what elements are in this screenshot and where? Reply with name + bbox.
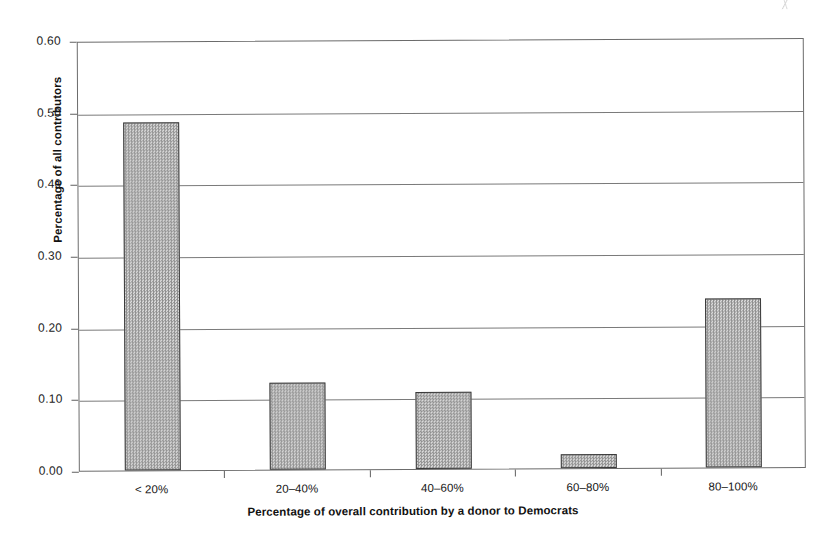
y-axis-tick-label: 0.60 [19,34,61,48]
y-axis-tick-label: 0.50 [19,105,61,119]
y-axis-tick [70,113,77,114]
plot-area [77,38,806,472]
gridlines [78,39,803,43]
gridline [78,182,803,187]
scan-artifact-speck [775,0,797,9]
x-axis-tick-label: 40–60% [382,482,502,495]
x-axis-ticks: < 20%20–40%40–60%60–80%80–100% [0,0,823,2]
bar [561,454,617,468]
x-axis-tick [370,470,371,477]
y-axis-tick [71,328,78,329]
gridline [79,326,804,331]
x-axis-tick-label: < 20% [92,483,212,496]
bar-chart-figure: Percentage of all contributors 0.000.100… [0,0,824,542]
x-axis-tick-label: 80–100% [673,480,793,493]
bar [705,298,762,467]
bar [415,391,471,469]
y-axis-tick-label: 0.00 [21,464,63,478]
y-axis-tick-label: 0.20 [20,320,62,334]
gridline [79,254,804,259]
y-axis-tick-label: 0.10 [20,392,62,406]
x-axis-tick-label: 20–40% [237,482,357,495]
scan-page: Percentage of all contributors 0.000.100… [0,0,824,542]
y-axis-tick [72,472,79,473]
y-axis-tick [71,400,78,401]
y-axis-tick-label: 0.40 [19,177,61,191]
x-axis-tick [660,469,661,476]
x-axis-tick [224,471,225,478]
x-axis-tick [515,469,516,476]
y-axis-tick-label: 0.30 [20,249,62,263]
x-axis-tick-label: 60–80% [528,481,648,494]
y-axis-tick [70,42,77,43]
y-axis-tick [71,257,78,258]
x-axis-title: Percentage of overall contribution by a … [1,503,824,519]
y-axis-title: Percentage of all contributors [51,40,64,280]
bar [123,123,181,471]
gridline [78,111,803,116]
bar-series [78,39,803,43]
y-axis-ticks: 0.000.100.200.300.400.500.60 [0,0,823,2]
y-axis-tick [70,185,77,186]
bar [270,383,326,470]
